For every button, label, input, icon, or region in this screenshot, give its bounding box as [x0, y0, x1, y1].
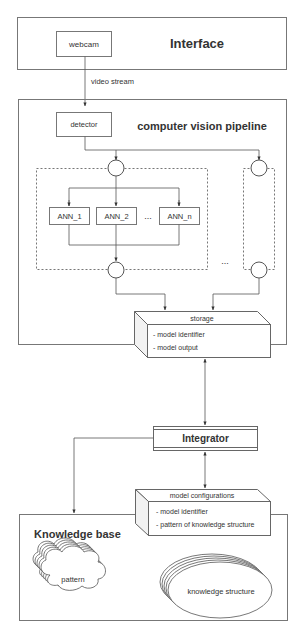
integrator-title: Integrator	[182, 433, 229, 444]
merge-node	[108, 262, 124, 278]
merge-2-to-storage	[213, 278, 259, 310]
merge-to-storage	[116, 278, 165, 310]
ann-merge-line	[69, 225, 179, 246]
storage-title: storage	[190, 315, 213, 323]
pipeline-title: computer vision pipeline	[137, 120, 267, 132]
architecture-diagram: Interface webcam video stream computer v…	[0, 0, 306, 640]
ann-node-2: ANN_2	[97, 208, 137, 225]
model-configurations-node: model configurations - model identifier …	[136, 490, 271, 536]
webcam-node: webcam	[57, 32, 112, 57]
storage-item: - model identifier	[153, 331, 205, 338]
svg-text:ANN_n: ANN_n	[167, 212, 191, 221]
split-branch-line	[69, 188, 179, 206]
integrator-node: Integrator	[154, 427, 258, 451]
detector-node: detector	[57, 113, 112, 137]
config-item: - model identifier	[156, 508, 208, 515]
storage-item: - model output	[153, 344, 198, 352]
split-node	[108, 160, 124, 176]
knowledge-base-title: Knowledge base	[34, 528, 121, 540]
ann-node-n: ANN_n	[160, 208, 200, 225]
merge-node-2	[251, 262, 267, 278]
ann-node-1: ANN_1	[50, 208, 90, 225]
split-node-2	[251, 160, 267, 176]
config-item: - pattern of knowledge structure	[156, 521, 255, 529]
model-configurations-title: model configurations	[170, 492, 235, 500]
ann-group-dashed-2	[244, 169, 275, 270]
svg-text:ANN_1: ANN_1	[57, 212, 81, 221]
knowledge-structure-label: knowledge structure	[187, 587, 254, 596]
pattern-label: pattern	[61, 575, 84, 584]
interface-title: Interface	[170, 36, 224, 51]
webcam-label: webcam	[68, 40, 99, 49]
ann-ellipsis: ...	[144, 211, 152, 221]
detector-to-right-branch	[85, 137, 259, 161]
detector-label: detector	[70, 120, 98, 129]
group-ellipsis: ...	[221, 256, 229, 266]
svg-text:ANN_2: ANN_2	[104, 212, 128, 221]
storage-node: storage - model identifier - model outpu…	[135, 312, 271, 358]
video-stream-label: video stream	[91, 77, 134, 86]
